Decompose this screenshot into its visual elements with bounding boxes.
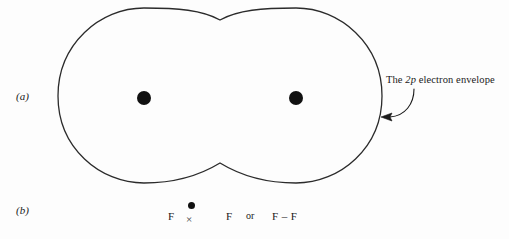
annotation-orbital-term: 2p: [405, 74, 416, 85]
panel-label-b: (b): [16, 204, 29, 216]
lewis-atom-right: F: [226, 210, 232, 222]
shared-electron-dot-icon: [188, 202, 195, 209]
annotation-text-after: electron envelope: [416, 74, 495, 85]
lewis-bond-formula: F – F: [272, 210, 297, 222]
left-nucleus-dot: [137, 91, 151, 105]
annotation-leader-line: [390, 89, 414, 117]
envelope-annotation-label: The 2p electron envelope: [386, 74, 495, 85]
shared-electron-cross-icon: ×: [186, 214, 192, 225]
electron-envelope-outline: [58, 8, 382, 183]
lewis-structure: F × F or F – F: [150, 198, 330, 234]
right-nucleus-dot: [289, 91, 303, 105]
figure-root: (a) (b) The 2p electron envelope F × F o…: [0, 0, 509, 239]
lewis-conjunction-label: or: [246, 210, 254, 221]
annotation-text-before: The: [386, 74, 405, 85]
lewis-atom-left: F: [168, 210, 174, 222]
panel-label-a: (a): [16, 90, 29, 102]
